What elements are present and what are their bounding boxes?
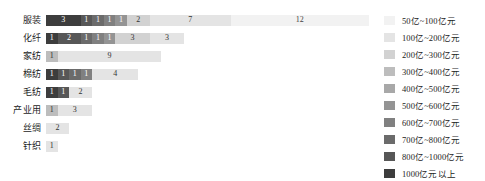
legend-swatch-icon (384, 33, 395, 42)
bar-segment: 9 (58, 51, 162, 62)
legend-swatch-icon (384, 118, 395, 127)
bar-segment: 1 (92, 33, 104, 44)
bar-segment: 1 (46, 69, 58, 80)
category-label: 家纺 (0, 51, 46, 62)
bar-segment: 1 (58, 87, 70, 98)
legend-swatch-icon (384, 67, 395, 76)
bar-segment: 1 (81, 15, 93, 26)
bar-segment-value: 4 (113, 70, 117, 78)
bar-segment-value: 1 (84, 16, 88, 24)
bar-segment: 1 (58, 69, 70, 80)
category-label: 棉纺 (0, 69, 46, 80)
legend-item[interactable]: 400亿~500亿元 (378, 80, 485, 97)
legend-item[interactable]: 50亿~100亿元 (378, 12, 485, 29)
bar-segment: 3 (58, 105, 93, 116)
legend-item[interactable]: 100亿~200亿元 (378, 29, 485, 46)
bar-segment-value: 2 (136, 16, 140, 24)
bar-segment-value: 3 (130, 34, 134, 42)
bar-segment: 1 (46, 87, 58, 98)
category-label: 丝绸 (0, 123, 46, 134)
legend-label: 700亿~800亿元 (402, 135, 460, 145)
legend-label: 300亿~400亿元 (402, 67, 460, 77)
legend-label: 600亿~700亿元 (402, 118, 460, 128)
bar-track: 1 (46, 141, 58, 152)
legend-item[interactable]: 300亿~400亿元 (378, 63, 485, 80)
bar-segment-value: 1 (50, 142, 54, 150)
legend-item[interactable]: 500亿~600亿元 (378, 97, 485, 114)
bar-segment: 1 (46, 105, 58, 116)
bar-segment: 2 (58, 33, 81, 44)
legend-swatch-icon (384, 135, 395, 144)
bar-track: 19 (46, 51, 161, 62)
legend-label: 500亿~600亿元 (402, 101, 460, 111)
bar-segment-value: 3 (61, 16, 65, 24)
bar-segment: 7 (150, 15, 231, 26)
bar-segment-value: 1 (96, 16, 100, 24)
bar-segment: 1 (115, 15, 127, 26)
bar-segment: 3 (115, 33, 150, 44)
bar-segment-value: 1 (50, 70, 54, 78)
bar-row: 服装311112712 (0, 11, 378, 29)
plot-area: 服装311112712化纤1211133家纺19棉纺11114毛纺112产业用1… (0, 0, 378, 181)
legend-swatch-icon (384, 50, 395, 59)
bar-segment-value: 1 (84, 34, 88, 42)
legend-item[interactable]: 600亿~700亿元 (378, 114, 485, 131)
bar-segment: 2 (127, 15, 150, 26)
legend-label: 1000亿元以上 (402, 169, 456, 179)
legend-item[interactable]: 800亿~1000亿元 (378, 148, 485, 165)
legend-swatch-icon (384, 16, 395, 25)
legend-item[interactable]: 200亿~300亿元 (378, 46, 485, 63)
bar-track: 1211133 (46, 33, 184, 44)
bar-segment-value: 2 (67, 34, 71, 42)
category-label: 产业用 (0, 105, 46, 116)
bar-segment-value: 12 (296, 16, 304, 24)
bar-segment-value: 1 (61, 70, 65, 78)
bar-segment: 1 (104, 33, 116, 44)
bar-segment-value: 1 (107, 16, 111, 24)
bar-segment-value: 2 (79, 88, 83, 96)
bar-segment: 1 (46, 33, 58, 44)
bar-segment-value: 1 (107, 34, 111, 42)
bar-track: 2 (46, 123, 69, 134)
bar-segment: 2 (69, 87, 92, 98)
legend-label: 800亿~1000亿元 (402, 152, 464, 162)
bar-segment: 1 (81, 33, 93, 44)
bar-segment-value: 3 (73, 106, 77, 114)
bar-track: 11114 (46, 69, 138, 80)
bar-segment-value: 7 (188, 16, 192, 24)
bar-segment-value: 3 (165, 34, 169, 42)
legend-label: 50亿~100亿元 (402, 16, 456, 26)
bar-row: 针织1 (0, 137, 378, 155)
bar-segment: 12 (231, 15, 369, 26)
category-label: 毛纺 (0, 87, 46, 98)
bar-segment-value: 1 (84, 70, 88, 78)
category-label: 化纤 (0, 33, 46, 44)
legend-item[interactable]: 1000亿元以上 (378, 165, 485, 181)
bar-segment: 4 (92, 69, 138, 80)
bar-segment-value: 1 (73, 70, 77, 78)
bar-segment-value: 1 (61, 88, 65, 96)
bar-segment-value: 1 (50, 34, 54, 42)
legend-swatch-icon (384, 152, 395, 161)
legend-swatch-icon (384, 84, 395, 93)
bar-row: 化纤1211133 (0, 29, 378, 47)
bar-segment: 3 (46, 15, 81, 26)
bar-track: 13 (46, 105, 92, 116)
bar-segment-value: 1 (50, 88, 54, 96)
chart-legend: 50亿~100亿元100亿~200亿元200亿~300亿元300亿~400亿元4… (378, 0, 485, 181)
bar-track: 112 (46, 87, 92, 98)
bar-segment-value: 1 (50, 106, 54, 114)
bar-segment: 1 (104, 15, 116, 26)
bar-row: 产业用13 (0, 101, 378, 119)
legend-swatch-icon (384, 169, 395, 178)
bar-segment: 1 (46, 141, 58, 152)
bar-segment: 1 (81, 69, 93, 80)
bar-segment: 3 (150, 33, 185, 44)
legend-item[interactable]: 700亿~800亿元 (378, 131, 485, 148)
category-label: 针织 (0, 141, 46, 152)
bar-row: 棉纺11114 (0, 65, 378, 83)
stacked-bar-chart: 服装311112712化纤1211133家纺19棉纺11114毛纺112产业用1… (0, 0, 485, 181)
bar-segment-value: 2 (56, 124, 60, 132)
legend-swatch-icon (384, 101, 395, 110)
bar-segment-value: 9 (107, 52, 111, 60)
